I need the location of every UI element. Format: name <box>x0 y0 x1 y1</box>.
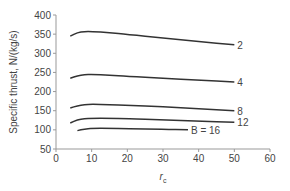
curve-label-B-2: 2 <box>237 40 243 51</box>
curve-B-2 <box>70 31 234 44</box>
y-tick-label: 200 <box>34 86 51 97</box>
x-tick-label: 10 <box>86 153 98 164</box>
curve-B-8 <box>70 104 234 110</box>
y-tick-label: 400 <box>34 10 51 21</box>
curve-label-B-12: 12 <box>237 117 249 128</box>
x-axis-label: rc <box>160 171 167 184</box>
curve-label-B-8: 8 <box>237 106 243 117</box>
curves: 24812B = 16 <box>70 31 249 135</box>
x-tick-label: 30 <box>157 153 169 164</box>
curve-label-B-4: 4 <box>237 77 243 88</box>
y-tick-label: 250 <box>34 67 51 78</box>
curve-B-4 <box>70 74 234 82</box>
y-tick-label: 350 <box>34 29 51 40</box>
specific-thrust-chart: 501001502002503003504000102030405060 248… <box>0 0 290 191</box>
x-tick-label: 20 <box>122 153 134 164</box>
curve-B-12 <box>70 118 234 123</box>
y-axis-label: Specific thrust, N/(kg/s) <box>8 30 19 133</box>
x-tick-label: 0 <box>53 153 59 164</box>
x-tick-label: 40 <box>193 153 205 164</box>
y-tick-label: 100 <box>34 124 51 135</box>
curve-B-16 <box>77 128 188 130</box>
y-tick-label: 50 <box>40 144 52 155</box>
curve-label-B-16: B = 16 <box>191 125 221 136</box>
y-tick-label: 300 <box>34 48 51 59</box>
x-tick-label: 60 <box>264 153 276 164</box>
y-tick-label: 150 <box>34 105 51 116</box>
x-tick-label: 50 <box>229 153 241 164</box>
